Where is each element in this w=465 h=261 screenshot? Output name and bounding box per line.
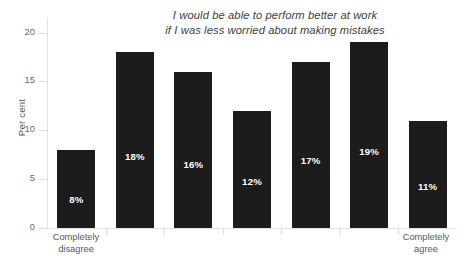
x-tick — [281, 228, 282, 235]
y-tick: 0 — [39, 228, 47, 229]
bar-value-label: 16% — [174, 159, 212, 170]
bar: 8% — [57, 150, 95, 228]
y-axis-title: Per cent — [16, 78, 27, 158]
x-label-disagree-line-1: Completely — [36, 232, 116, 244]
bar-chart: I would be able to perform better at wor… — [0, 0, 465, 261]
bar-value-label: 12% — [233, 176, 271, 187]
bar-value-label: 8% — [57, 194, 95, 205]
y-tick: 10 — [39, 130, 47, 131]
y-tick-label: 0 — [30, 221, 35, 232]
bar-value-label: 17% — [292, 155, 330, 166]
bar: 19% — [350, 42, 388, 228]
y-tick: 20 — [39, 33, 47, 34]
y-axis-line — [47, 18, 48, 228]
bar: 11% — [409, 121, 447, 228]
x-label-disagree-line-2: disagree — [36, 244, 116, 256]
x-axis-line — [47, 228, 457, 229]
y-tick: 15 — [39, 81, 47, 82]
bar: 12% — [233, 111, 271, 228]
y-tick-label: 5 — [30, 172, 35, 183]
x-tick — [164, 228, 165, 235]
y-tick-label: 20 — [25, 26, 35, 37]
y-tick-label: 10 — [25, 123, 35, 134]
bar-value-label: 19% — [350, 146, 388, 157]
x-label-agree-line-2: agree — [386, 244, 465, 256]
x-tick — [340, 228, 341, 235]
x-label-agree-line-1: Completely — [386, 232, 465, 244]
bar-value-label: 18% — [116, 151, 154, 162]
plot-area: 05101520 8%18%16%12%17%19%11% — [47, 18, 457, 228]
bar: 17% — [292, 62, 330, 228]
bar-value-label: 11% — [409, 181, 447, 192]
x-tick — [223, 228, 224, 235]
x-label-completely-agree: Completely agree — [386, 232, 465, 255]
bar: 18% — [116, 52, 154, 228]
y-tick: 5 — [39, 179, 47, 180]
bar: 16% — [174, 72, 212, 228]
x-label-completely-disagree: Completely disagree — [36, 232, 116, 255]
y-tick-label: 15 — [25, 74, 35, 85]
